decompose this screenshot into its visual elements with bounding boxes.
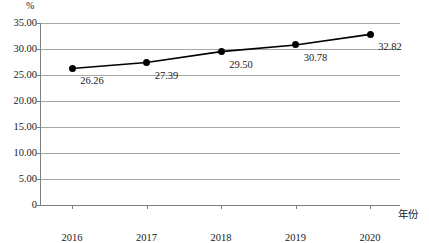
y-tick-label: 15.00 [0,122,37,133]
data-point-label: 29.50 [229,60,253,71]
y-tick-label: 20.00 [0,96,37,107]
y-tick-label: 10.00 [0,148,37,159]
data-point-marker [69,65,76,72]
x-tick-label: 2018 [211,233,232,243]
x-axis-line [40,205,400,206]
data-point-label: 27.39 [155,71,179,82]
line-chart: % 35.00 30.00 25.00 20.00 15.00 10.00 5.… [0,0,429,243]
y-tick-label: 35.00 [0,18,37,29]
x-tick-mark [296,205,297,209]
x-tick-label: 2019 [285,233,306,243]
x-tick-mark [72,205,73,209]
x-tick-mark [221,205,222,209]
data-point-marker [218,48,225,55]
x-tick-label: 2020 [360,233,381,243]
x-axis-title: 年份 [398,210,418,221]
y-tick-label: 25.00 [0,70,37,81]
data-point-marker [367,31,374,38]
data-point-label: 30.78 [304,53,328,64]
x-tick-mark [370,205,371,209]
y-tick-label: 30.00 [0,44,37,55]
y-tick-label: 5.00 [0,174,37,185]
data-point-label: 26.26 [80,76,104,87]
plot-area: 26.2627.3929.5030.7832.82 20162017201820… [40,23,400,205]
y-tick-label: 0 [0,200,37,211]
data-point-marker [143,59,150,66]
y-axis-tick-labels: 35.00 30.00 25.00 20.00 15.00 10.00 5.00… [0,0,37,243]
data-point-label: 32.82 [378,42,402,53]
x-tick-mark [147,205,148,209]
x-tick-label: 2017 [136,233,157,243]
x-tick-label: 2016 [62,233,83,243]
